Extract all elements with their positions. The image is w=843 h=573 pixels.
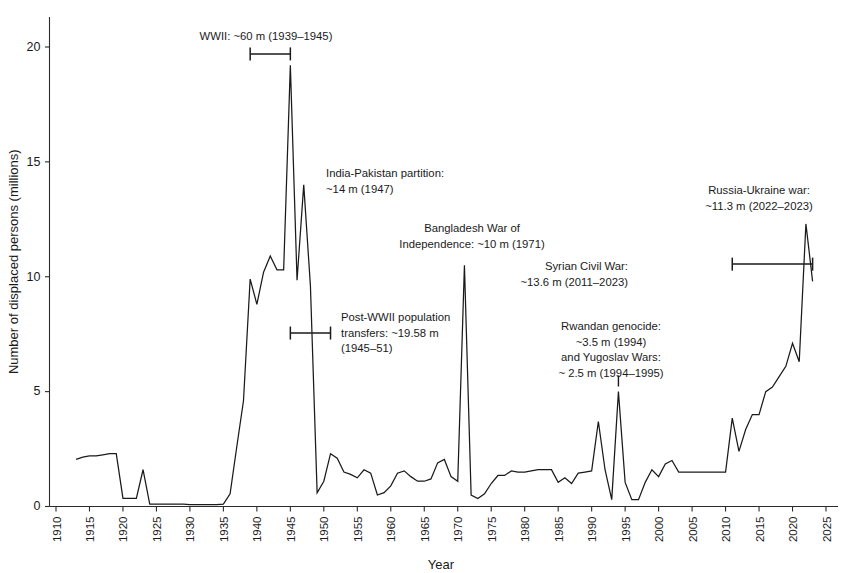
x-axis-tick-label: 1940 [251, 517, 263, 543]
x-axis-tick-label: 2005 [687, 517, 699, 543]
x-axis-title: Year [428, 557, 455, 572]
x-axis-tick-label: 1925 [151, 517, 163, 543]
x-axis-tick-label: 1975 [486, 517, 498, 543]
annotation-text-line: India-Pakistan partition: [326, 167, 444, 179]
annotation-text-line: and Yugoslav Wars: [561, 351, 661, 363]
annotation-text-line: Russia-Ukraine war: [708, 184, 810, 196]
annotation-text-line: Rwandan genocide: [561, 320, 661, 332]
annotation-text-line: ~13.6 m (2011–2023) [520, 276, 628, 288]
annotation-text-line: ~3.5 m (1994) [576, 336, 647, 348]
x-axis-tick-label: 1960 [385, 517, 397, 543]
y-axis-title: Number of displaced persons (millions) [6, 149, 21, 374]
x-axis-tick-label: 1930 [184, 517, 196, 543]
annotation-text-line: WWII: ~60 m (1939–1945) [200, 30, 333, 42]
x-axis-tick-label: 1950 [318, 517, 330, 543]
x-axis-tick-label: 2010 [720, 517, 732, 543]
annotation-text-line: Post-WWII population [341, 311, 450, 323]
chart-canvas: 05101520 1910191519201925193019351940194… [0, 0, 843, 573]
displaced-persons-chart: 05101520 1910191519201925193019351940194… [0, 0, 843, 573]
x-axis-tick-label: 2020 [787, 517, 799, 543]
y-axis-tick-label: 0 [34, 499, 41, 513]
annotation-text-line: transfers: ~19.58 m [341, 327, 439, 339]
x-axis-tick-label: 1980 [519, 517, 531, 543]
annotation-text-line: Independence: ~10 m (1971) [399, 238, 545, 250]
annotation-text-line: Syrian Civil War: [545, 260, 628, 272]
x-axis-tick-label: 2025 [821, 517, 833, 543]
x-axis-tick-label: 1920 [117, 517, 129, 543]
y-axis-tick-label: 10 [27, 270, 41, 284]
x-axis-tick-label: 1970 [452, 517, 464, 543]
y-axis-tick-label: 20 [27, 40, 41, 54]
chart-background [0, 0, 843, 573]
annotation-rwandan-genocide-yugoslav-wars: Rwandan genocide:~3.5 m (1994)and Yugosl… [558, 320, 663, 387]
annotation-text-line: ~14 m (1947) [326, 183, 394, 195]
annotation-text-line: ~ 2.5 m (1994–1995) [558, 367, 663, 379]
x-axis-tick-label: 1910 [51, 517, 63, 543]
x-axis-tick-label: 1915 [84, 517, 96, 543]
x-axis-tick-label: 1955 [352, 517, 364, 543]
x-axis-tick-label: 1965 [419, 517, 431, 543]
x-axis-tick-label: 1985 [553, 517, 565, 543]
annotation-text-line: ~11.3 m (2022–2023) [705, 200, 813, 212]
x-axis-tick-label: 1990 [586, 517, 598, 543]
y-axis-tick-label: 5 [34, 384, 41, 398]
x-axis-tick-label: 2000 [653, 517, 665, 543]
y-axis-tick-label: 15 [27, 155, 41, 169]
x-axis-tick-label: 1945 [285, 517, 297, 543]
x-axis-tick-label: 1935 [218, 517, 230, 543]
x-axis-tick-label: 2015 [754, 517, 766, 543]
annotation-text-line: (1945–51) [341, 342, 393, 354]
annotation-text-line: Bangladesh War of [424, 222, 521, 234]
x-axis-tick-label: 1995 [620, 517, 632, 543]
